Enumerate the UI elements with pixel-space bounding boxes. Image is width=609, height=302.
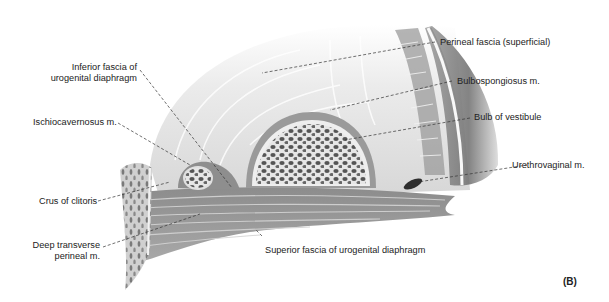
label-crus-of-clitoris: Crus of clitoris [39, 196, 97, 207]
label-inferior-fascia: Inferior fascia of urogenital diaphragm [40, 62, 137, 84]
label-inferior-fascia-line2: urogenital diaphragm [40, 73, 137, 84]
label-deep-transverse-line1: Deep transverse [20, 240, 100, 251]
label-deep-transverse-perineal: Deep transverse perineal m. [20, 240, 100, 262]
label-inferior-fascia-line1: Inferior fascia of [40, 62, 137, 73]
label-ischiocavernosus: Ischiocavernosus m. [33, 117, 117, 128]
label-urethrovaginal: Urethrovaginal m. [512, 160, 585, 171]
crus-of-clitoris [185, 168, 211, 188]
label-bulb-of-vestibule: Bulb of vestibule [474, 112, 541, 123]
anatomy-figure: Inferior fascia of urogenital diaphragm … [0, 0, 609, 302]
label-bulbospongiosus: Bulbospongiosus m. [457, 76, 540, 87]
label-superior-fascia: Superior fascia of urogenital diaphragm [265, 245, 425, 256]
panel-label: (B) [563, 276, 577, 287]
label-deep-transverse-line2: perineal m. [20, 251, 100, 262]
label-perineal-fascia: Perineal fascia (superficial) [440, 37, 550, 48]
ischiopubic-ramus-cut-edge [120, 163, 152, 290]
